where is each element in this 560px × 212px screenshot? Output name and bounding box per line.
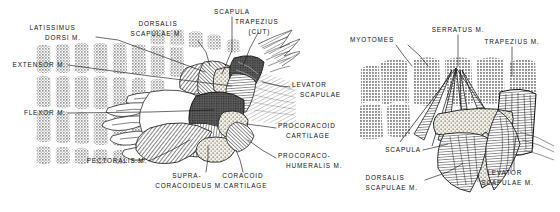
anatomical-figure: LATISSIMUS DORSI M. DORSALIS SCAPULAE M.… bbox=[0, 0, 560, 212]
label-extensor: EXTENSOR M. bbox=[13, 61, 66, 68]
figure-canvas: LATISSIMUS DORSI M. DORSALIS SCAPULAE M.… bbox=[0, 0, 560, 212]
label-trapezius: TRAPEZIUS M. bbox=[485, 38, 540, 45]
label-flexor: FLEXOR M. bbox=[24, 109, 66, 116]
label-serratus: SERRATUS M. bbox=[432, 26, 485, 33]
label-scapula: SCAPULA bbox=[214, 8, 250, 15]
label-scapula-right: SCAPULA bbox=[385, 146, 421, 153]
label-pectoralis: PECTORALIS M. bbox=[87, 157, 147, 164]
label-myotomes: MYOTOMES bbox=[350, 36, 394, 43]
